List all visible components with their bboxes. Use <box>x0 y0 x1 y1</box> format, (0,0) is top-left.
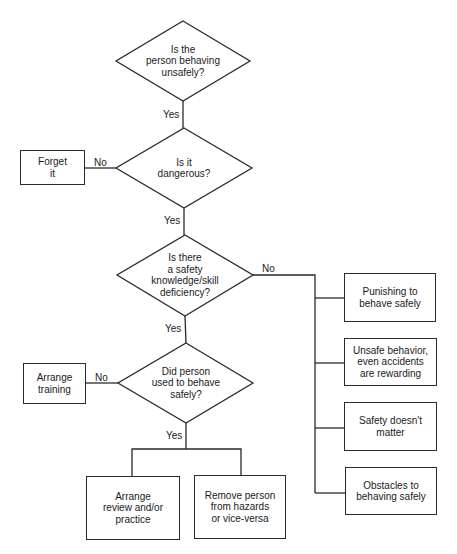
box-arrange-review: Arrange review and/or practice <box>86 476 180 540</box>
decision-3-text: Is there a safety knowledge/skill defici… <box>127 251 243 299</box>
edge-label-yes-4: Yes <box>166 430 182 441</box>
box-arrange-training: Arrange training <box>23 363 86 404</box>
decision-1-text: Is the person behaving unsafely? <box>126 41 240 81</box>
edge-label-no-d4: No <box>95 372 108 383</box>
box-remove-person: Remove person from hazards or vice-versa <box>194 475 286 539</box>
decision-2-text: Is it dangerous? <box>126 150 242 186</box>
edge-label-no-d3: No <box>262 263 275 274</box>
box-obstacles: Obstacles to behaving safely <box>345 467 437 515</box>
edge-label-yes-3: Yes <box>165 323 181 334</box>
box-safety-doesnt-matter: Safety doesn't matter <box>344 402 437 451</box>
edge-label-yes-1: Yes <box>163 109 179 120</box>
box-unsafe-rewarding: Unsafe behavior, even accidents are rewa… <box>344 338 437 386</box>
decision-4-text: Did person used to behave safely? <box>128 364 244 402</box>
box-forget-it: Forget it <box>20 150 85 185</box>
box-punishing: Punishing to behave safely <box>344 273 436 322</box>
edge-label-no-d2: No <box>94 157 107 168</box>
edge-label-yes-2: Yes <box>164 215 180 226</box>
